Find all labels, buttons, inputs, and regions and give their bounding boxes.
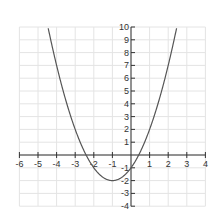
y-tick-label: -3 — [121, 188, 129, 198]
y-tick-label: 5 — [124, 86, 129, 96]
y-tick-label: 7 — [124, 60, 129, 70]
x-tick-label: -1 — [108, 159, 116, 169]
y-tick-label: 8 — [124, 48, 129, 58]
y-tick-label: 4 — [124, 99, 129, 109]
x-tick-label: -6 — [15, 159, 23, 169]
y-tick-label: 3 — [124, 112, 129, 122]
x-tick-label: -3 — [71, 159, 79, 169]
y-tick-label: 9 — [124, 35, 129, 45]
y-tick-label: 6 — [124, 73, 129, 83]
grid-lines — [19, 27, 205, 206]
y-tick-label: 1 — [124, 137, 129, 147]
x-tick-label: 3 — [184, 159, 189, 169]
parabola-plot: -6-5-4-3-2-1123410987654321-1-2-3-4 — [0, 0, 219, 220]
y-tick-label: 2 — [124, 124, 129, 134]
x-tick-label: 1 — [147, 159, 152, 169]
x-tick-label: 2 — [166, 159, 171, 169]
y-tick-label: 10 — [119, 22, 129, 32]
x-tick-label: -4 — [53, 159, 61, 169]
x-tick-label: -5 — [34, 159, 42, 169]
y-tick-label: -4 — [121, 201, 129, 211]
x-tick-label: 4 — [203, 159, 208, 169]
